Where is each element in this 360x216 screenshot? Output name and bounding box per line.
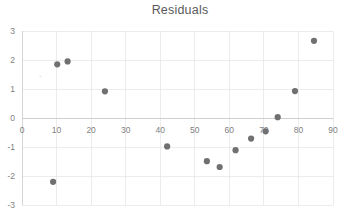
data-point [263, 128, 269, 134]
y-tick-label: 2 [10, 55, 15, 65]
data-point [102, 88, 108, 94]
data-point [232, 147, 238, 153]
data-point [311, 38, 317, 44]
y-tick-label: -3 [7, 200, 15, 210]
data-point [204, 158, 210, 164]
y-tick-label: -1 [7, 142, 15, 152]
x-tick-label: 40 [155, 125, 165, 135]
x-tick-label: 10 [52, 125, 62, 135]
y-tick-label: 3 [10, 26, 15, 36]
data-point [292, 88, 298, 94]
data-point [54, 61, 60, 67]
x-axis-tick-labels: 0102030405060708090 [20, 125, 338, 135]
y-axis-tick-labels: 3210-1-2-3 [7, 26, 15, 210]
x-tick-label: 0 [20, 125, 25, 135]
x-tick-label: 80 [294, 125, 304, 135]
plot-area: 3210-1-2-3 0102030405060708090 [0, 0, 360, 216]
y-tick-label: 1 [10, 84, 15, 94]
x-tick-label: 50 [190, 125, 200, 135]
data-point [65, 58, 71, 64]
x-tick-label: 60 [225, 125, 235, 135]
data-point [50, 179, 56, 185]
data-point [164, 143, 170, 149]
faint-artifact [39, 75, 41, 77]
residuals-scatter-chart: Residuals 3210-1-2-3 0102030405060708090 [0, 0, 360, 216]
y-tick-label: 0 [10, 113, 15, 123]
x-tick-label: 20 [86, 125, 96, 135]
axis-lines [22, 31, 333, 205]
x-tick-label: 30 [121, 125, 131, 135]
y-tick-label: -2 [7, 171, 15, 181]
data-point [217, 164, 223, 170]
x-tick-label: 90 [328, 125, 338, 135]
data-point [248, 135, 254, 141]
data-point [275, 114, 281, 120]
